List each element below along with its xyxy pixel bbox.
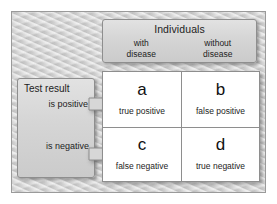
- matrix-cell-true-positive: a true positive: [103, 72, 181, 127]
- matrix-cell-true-negative: d true negative: [181, 127, 259, 182]
- matrix-cell-letter: c: [138, 135, 147, 155]
- matrix-cell-letter: d: [216, 135, 225, 155]
- test-result-panel: Test result is positive is negative: [17, 78, 95, 178]
- matrix-cell-letter: a: [137, 80, 146, 100]
- matrix-cell-false-negative: c false negative: [103, 127, 181, 182]
- column-header-without-disease: without disease: [180, 38, 257, 59]
- column-header-without-disease-line1: without: [180, 38, 257, 49]
- column-header-with-disease-line2: disease: [103, 49, 180, 60]
- column-header-with-disease: with disease: [103, 38, 180, 59]
- diagram-canvas: Individuals with disease without disease…: [0, 0, 277, 204]
- column-header-without-disease-line2: disease: [180, 49, 257, 60]
- matrix-cell-caption: true negative: [196, 161, 245, 171]
- row-label-is-negative: is negative: [46, 140, 89, 152]
- individuals-title: Individuals: [103, 23, 256, 36]
- matrix-cell-caption: false negative: [116, 161, 168, 171]
- confusion-matrix-table: a true positive b false positive c false…: [102, 71, 260, 182]
- test-result-title: Test result: [24, 83, 89, 95]
- matrix-cell-caption: true positive: [119, 106, 165, 116]
- matrix-cell-caption: false positive: [196, 106, 245, 116]
- row-label-is-positive: is positive: [24, 98, 89, 110]
- individuals-header-box: Individuals with disease without disease: [102, 19, 257, 63]
- individuals-column-labels: with disease without disease: [103, 38, 256, 59]
- column-header-with-disease-line1: with: [103, 38, 180, 49]
- matrix-cell-letter: b: [216, 80, 225, 100]
- matrix-cell-false-positive: b false positive: [181, 72, 259, 127]
